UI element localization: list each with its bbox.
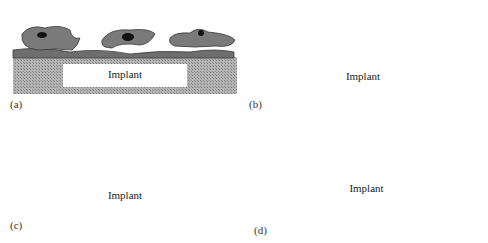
- nucleus: [37, 32, 47, 38]
- panel-label-a: (a): [10, 98, 22, 110]
- panel-label-c: (c): [10, 219, 22, 231]
- implant-label-d: Implant: [311, 182, 422, 194]
- nucleus: [122, 33, 134, 41]
- cell: [22, 26, 80, 50]
- panel-a: [13, 26, 237, 94]
- base-cell-layer: [13, 48, 234, 58]
- panel-label-d: (d): [254, 224, 267, 236]
- nucleus: [198, 30, 204, 36]
- panel-label-b: (b): [249, 98, 262, 110]
- implant-label-a: Implant: [63, 68, 187, 80]
- implant-label-b: Implant: [302, 70, 424, 82]
- implant-label-c: Implant: [63, 189, 187, 201]
- diagram-canvas: [0, 0, 488, 243]
